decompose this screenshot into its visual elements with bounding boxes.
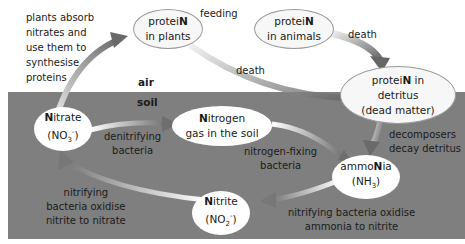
node-ammonia: ammoNia (NH3)	[332, 155, 400, 199]
node-nitrate: Nitrate (NO3-)	[34, 107, 92, 151]
label-soil: soil	[137, 95, 158, 109]
label-denitrifying: denitrifying bacteria	[104, 130, 161, 158]
label-feeding: feeding	[200, 7, 238, 21]
node-nitrogen-gas: Nitrogen gas in the soil	[172, 106, 272, 146]
denitrifying-arrow	[90, 123, 168, 130]
label-plants-absorb: plants absorb nitrates and use them to s…	[26, 10, 94, 85]
label-nitrifying-ammonia: nitrifying bacteria oxidise ammonia to n…	[288, 206, 415, 234]
label-nitrogen-fixing: nitrogen-fixing bacteria	[244, 145, 317, 173]
node-protein-in-detritus: proteiN in detritus (dead matter)	[340, 66, 456, 124]
label-death-animals: death	[348, 28, 377, 42]
label-decomposers: decomposers decay detritus	[389, 128, 461, 156]
ammonia-nitrite-arrow	[270, 180, 340, 200]
label-nitrifying-nitrite: nitrifying bacteria oxidise nitrite to n…	[46, 186, 126, 228]
node-protein-in-plants: proteiN in plants	[133, 9, 203, 49]
death-plants-arrow	[190, 45, 348, 98]
label-air: air	[138, 75, 154, 89]
label-death-plants: death	[236, 64, 265, 78]
node-nitrite: Nitrite (NO2-)	[192, 191, 250, 235]
node-protein-in-animals: proteiN in animals	[254, 9, 334, 49]
